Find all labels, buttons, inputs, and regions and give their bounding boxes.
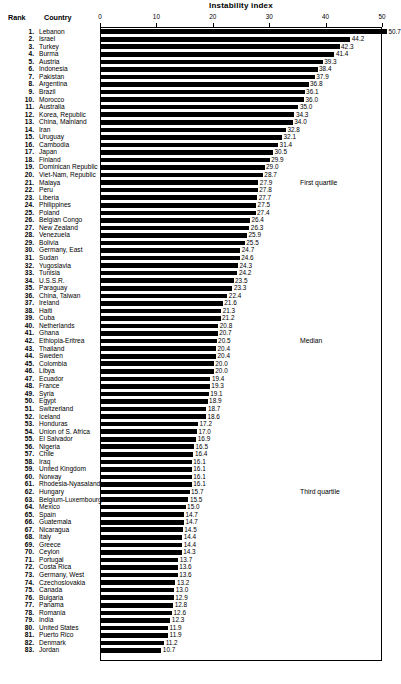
row-bar	[101, 44, 340, 49]
row-bar	[101, 369, 214, 374]
row-country-label: Paraguay	[39, 284, 67, 291]
row-bar	[101, 346, 216, 351]
row-value-label: 11.2	[164, 639, 177, 646]
chart-row: 16.Cambodia31.4	[0, 141, 400, 149]
row-bar	[101, 392, 209, 397]
row-bar	[101, 135, 282, 140]
row-country-label: Colombia	[39, 360, 67, 367]
row-value-label: 24.2	[237, 269, 251, 276]
row-country-label: Nigeria	[39, 443, 60, 450]
row-value-label: 14.7	[184, 518, 198, 525]
row-country-label: Germany, West	[39, 571, 84, 578]
row-value-label: 21.3	[221, 307, 235, 314]
row-country-label: Ceylon	[39, 548, 60, 555]
row-rank: 22.	[12, 186, 34, 193]
row-value-label: 16.1	[192, 480, 206, 487]
x-axis-tick-label: 0	[98, 13, 102, 20]
row-bar	[101, 558, 178, 563]
row-rank: 31.	[12, 254, 34, 261]
row-bar	[101, 105, 298, 110]
row-value-label: 12.9	[174, 594, 188, 601]
row-rank: 79.	[12, 616, 34, 623]
row-bar	[101, 316, 221, 321]
row-bar	[101, 286, 232, 291]
row-bar	[101, 452, 193, 457]
row-rank: 73.	[12, 571, 34, 578]
row-bar	[101, 324, 218, 329]
chart-row: 24.Philippines27.5	[0, 202, 400, 210]
row-rank: 15.	[12, 133, 34, 140]
row-bar	[101, 233, 247, 238]
row-country-label: Morocco	[39, 96, 64, 103]
row-country-label: Iran	[39, 126, 50, 133]
row-rank: 3.	[12, 43, 34, 50]
row-bar	[101, 497, 188, 502]
row-rank: 37.	[12, 299, 34, 306]
row-rank: 62.	[12, 488, 34, 495]
row-bar	[101, 641, 164, 646]
row-value-label: 27.9	[258, 179, 272, 186]
row-country-label: Lebanon	[39, 28, 65, 35]
row-rank: 76.	[12, 594, 34, 601]
row-bar	[101, 203, 256, 208]
row-bar	[101, 550, 182, 555]
row-country-label: Liberia	[39, 194, 59, 201]
row-bar	[101, 490, 190, 495]
row-country-label: Libya	[39, 367, 55, 374]
row-bar	[101, 331, 218, 336]
row-value-label: 30.5	[273, 148, 287, 155]
row-bar	[101, 211, 256, 216]
row-rank: 66.	[12, 518, 34, 525]
row-value-label: 15.0	[186, 503, 200, 510]
chart-annotation: Third quartile	[300, 488, 340, 495]
row-country-label: Peru	[39, 186, 53, 193]
row-value-label: 13.0	[174, 586, 188, 593]
row-value-label: 18.9	[208, 397, 222, 404]
row-bar	[101, 648, 161, 653]
row-bar	[101, 512, 184, 517]
row-bar	[101, 158, 270, 163]
row-rank: 52.	[12, 413, 34, 420]
row-value-label: 32.1	[282, 133, 296, 140]
chart-row: 28.Venezuela25.9	[0, 232, 400, 240]
row-value-label: 20.8	[218, 322, 232, 329]
row-bar	[101, 475, 192, 480]
row-rank: 21.	[12, 179, 34, 186]
row-country-label: Cuba	[39, 314, 55, 321]
chart-row: 64.Mexico15.0	[0, 503, 400, 511]
row-value-label: 18.7	[206, 405, 220, 412]
row-country-label: Ghana	[39, 329, 59, 336]
row-bar	[101, 271, 237, 276]
row-value-label: 37.9	[315, 73, 329, 80]
row-country-label: Mexico	[39, 503, 60, 510]
row-rank: 38.	[12, 307, 34, 314]
row-bar	[101, 618, 170, 623]
row-rank: 61.	[12, 480, 34, 487]
row-value-label: 12.6	[172, 609, 186, 616]
row-country-label: Iceland	[39, 413, 60, 420]
row-bar	[101, 150, 273, 155]
row-bar	[101, 460, 192, 465]
chart-row: 1.Lebanon50.7	[0, 28, 400, 36]
row-bar	[101, 301, 223, 306]
row-bar	[101, 505, 186, 510]
row-country-label: Thailand	[39, 345, 64, 352]
row-value-label: 36.8	[309, 80, 323, 87]
row-bar	[101, 626, 168, 631]
row-country-label: Portugal	[39, 556, 64, 563]
row-country-label: Argentina	[39, 80, 67, 87]
row-rank: 29.	[12, 239, 34, 246]
row-bar	[101, 543, 182, 548]
row-value-label: 16.1	[192, 473, 206, 480]
chart-row: 38.Haiti21.3	[0, 307, 400, 315]
row-country-label: Canada	[39, 586, 62, 593]
chart-row: 4.Burma41.4	[0, 51, 400, 59]
row-country-label: Belgium-Luxembourg	[39, 496, 102, 503]
row-bar	[101, 248, 240, 253]
row-rank: 51.	[12, 405, 34, 412]
row-bar	[101, 75, 315, 80]
row-rank: 50.	[12, 397, 34, 404]
row-rank: 49.	[12, 390, 34, 397]
row-bar	[101, 573, 178, 578]
row-bar	[101, 633, 168, 638]
